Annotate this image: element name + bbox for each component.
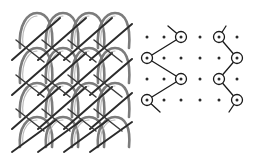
needle-dot bbox=[163, 57, 166, 60]
needle-dot bbox=[199, 57, 202, 60]
warp-knitted-fabric-photo bbox=[0, 0, 137, 155]
needle-dot bbox=[163, 36, 166, 39]
needle-dot bbox=[146, 36, 149, 39]
needle-dot bbox=[199, 36, 202, 39]
knitted-structure-figure: Lf Lb bbox=[0, 0, 275, 155]
needle-dot bbox=[199, 99, 202, 102]
needle-dot bbox=[146, 99, 149, 102]
needle-dot bbox=[163, 78, 166, 81]
needle-dot bbox=[146, 57, 149, 60]
needle-dot bbox=[218, 99, 221, 102]
needle-dot bbox=[199, 78, 202, 81]
needle-dot bbox=[180, 99, 183, 102]
needle-dot bbox=[218, 36, 221, 39]
lapping-background bbox=[137, 0, 275, 155]
fabric-panel bbox=[0, 0, 137, 155]
needle-dot bbox=[236, 36, 239, 39]
needle-dot bbox=[236, 78, 239, 81]
lapping-diagrams-panel: Lf Lb bbox=[137, 0, 275, 155]
needle-dot bbox=[163, 99, 166, 102]
lapping-diagrams bbox=[137, 0, 275, 155]
needle-dot bbox=[218, 57, 221, 60]
needle-dot bbox=[180, 78, 183, 81]
needle-dot bbox=[236, 99, 239, 102]
needle-dot bbox=[146, 78, 149, 81]
needle-dot bbox=[218, 78, 221, 81]
needle-dot bbox=[180, 36, 183, 39]
needle-dot bbox=[236, 57, 239, 60]
needle-dot bbox=[180, 57, 183, 60]
